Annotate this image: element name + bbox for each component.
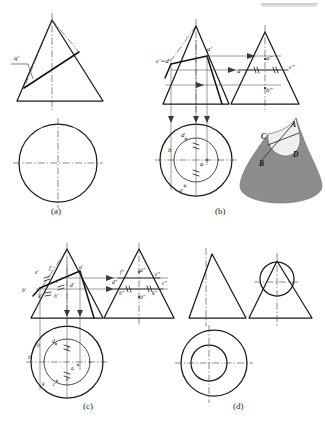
- panel-c-point-label-f-front: f': [49, 265, 53, 271]
- panel-b-arrow-cd: [228, 67, 236, 73]
- panel-c-point-label-d-top: d: [52, 338, 55, 344]
- panel-b-point-label-cd-front: c'=d': [156, 57, 171, 65]
- panel-c-point-label-d-front: d': [70, 282, 75, 288]
- panel-b-section-line-lower: [207, 56, 222, 104]
- panel-c-front-tick-1: [44, 276, 50, 281]
- panel-b-point-label-b-side: b″: [266, 86, 273, 94]
- panel-c-arrow-down-2: [77, 310, 83, 317]
- panel-a-cone-front-outline: [17, 20, 103, 101]
- panel-c-front-tick-3: [45, 292, 51, 296]
- panel-d-side-outline: [249, 261, 312, 318]
- panel-c-section-line-upper: [40, 271, 80, 288]
- panel-b-point-label-b-top: b: [168, 146, 172, 154]
- panel-d-front-outline: [189, 254, 246, 318]
- panel-c-caption: (c): [83, 401, 93, 411]
- panel-c-point-label-d-side: d″: [112, 279, 118, 285]
- panel-b-top-point-c: [184, 185, 186, 187]
- panel-c-point-label-h-top: h: [37, 342, 40, 348]
- panel-c-top-point-c: [56, 380, 58, 382]
- panel-b-point-label-d-top: d: [181, 131, 185, 139]
- panel-c-point-label-h-side: h″: [119, 290, 125, 296]
- panel-b-top-point-d: [185, 138, 187, 140]
- panel-b-point-label-a-side: a″: [266, 54, 273, 62]
- panel-c-point-label-c-side: c″: [162, 280, 167, 286]
- panel-c-point-label-a-top: a: [71, 365, 74, 371]
- panel-c-point-label-e-front: e': [35, 269, 39, 275]
- panel-c: e' f' a' c' d' b' k' h' f″ a″ e″ c″ d″ h…: [22, 243, 174, 411]
- panel-c-point-label-e-side: e″: [155, 271, 160, 277]
- panel-c-top-point-d: [55, 343, 57, 345]
- cone-vertex-label-A: A: [290, 120, 296, 129]
- panel-c-point-label-e-top: e: [66, 376, 69, 382]
- cone-point-label-B: B: [258, 159, 264, 168]
- panel-c-point-label-a-side: a″: [140, 267, 146, 273]
- panel-b: c'=d' a' a″ d″ c″ b″ d b a c: [155, 19, 322, 216]
- panel-b-caption: (b): [215, 206, 226, 216]
- panel-a: q' (a): [11, 13, 103, 216]
- panel-c-point-label-f-side: f″: [120, 269, 125, 275]
- panel-b-point-label-d-side: d″: [237, 67, 244, 75]
- panel-b-arrow-down-1: [168, 116, 174, 123]
- panel-c-arrow-down-1: [64, 310, 70, 317]
- panel-c-point-label-h-front: h': [54, 293, 59, 299]
- panel-c-point-label-b-side: b″: [140, 294, 146, 300]
- panel-b-section-line-upper: [171, 56, 207, 64]
- panel-b-point-label-a-front: a': [207, 45, 213, 53]
- panel-d: (d): [175, 248, 312, 411]
- panel-c-point-label-k-top: k: [42, 381, 45, 387]
- panel-c-point-label-k-side: k″: [152, 290, 157, 296]
- panel-a-caption: (a): [51, 206, 61, 216]
- panel-a-cone-edge-right-construction: [52, 20, 79, 52]
- panel-b-section-line-left: [165, 64, 171, 78]
- panel-b-point-label-a-top: a: [200, 160, 204, 168]
- panel-a-point-label-q: q': [14, 54, 20, 62]
- panel-b-point-label-c-top: c: [180, 186, 184, 194]
- panel-b-arrow-down-2: [193, 116, 199, 123]
- panel-b-arrow-down-3: [204, 116, 210, 123]
- panel-c-point-label-a-front: a': [79, 264, 84, 270]
- panel-b-3d-cone-illustration: A C B D: [240, 118, 322, 203]
- panel-b-point-label-c-side: c″: [289, 63, 295, 71]
- panel-c-point-label-f-top: f: [67, 345, 70, 351]
- panel-c-point-label-b-front: b': [22, 287, 27, 293]
- panel-c-front-edge-construction: [40, 249, 67, 290]
- cone-point-label-D: D: [292, 150, 299, 159]
- panel-a-section-line: [24, 52, 79, 88]
- panel-b-arrow-b: [196, 82, 204, 88]
- engineering-drawing-figure: q' (a) c'=d' a': [0, 0, 325, 427]
- panel-c-point-label-b-top: b: [28, 354, 31, 360]
- panel-d-caption: (d): [233, 401, 244, 411]
- panel-c-top-point-a: [77, 364, 79, 366]
- panel-c-arrow-lower: [106, 286, 114, 292]
